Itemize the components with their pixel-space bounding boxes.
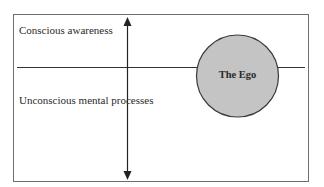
conscious-awareness-label: Conscious awareness bbox=[19, 25, 113, 36]
ego-diagram: Conscious awareness Unconscious mental p… bbox=[0, 0, 324, 187]
unconscious-processes-label: Unconscious mental processes bbox=[19, 95, 153, 106]
ego-label: The Ego bbox=[197, 70, 278, 81]
arrow-down-head-icon bbox=[124, 171, 132, 180]
arrow-up-head-icon bbox=[124, 17, 132, 26]
